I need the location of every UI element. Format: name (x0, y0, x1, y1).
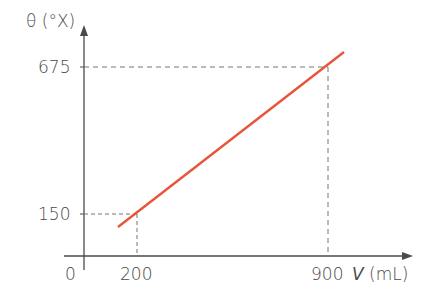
x-axis-unit: (mL) (369, 264, 408, 284)
y-axis-arrow-icon (80, 25, 88, 36)
x-axis-arrow-icon (402, 252, 413, 260)
y-tick-675: 675 (38, 57, 70, 77)
origin-label: 0 (65, 264, 76, 284)
data-line (118, 52, 344, 227)
x-axis-var: V (352, 264, 364, 284)
y-tick-150: 150 (38, 204, 70, 224)
x-tick-900: 900 (311, 264, 343, 284)
y-axis-label: θ (°X) (26, 11, 75, 31)
chart-canvas (0, 0, 426, 308)
x-tick-200: 200 (120, 264, 152, 284)
